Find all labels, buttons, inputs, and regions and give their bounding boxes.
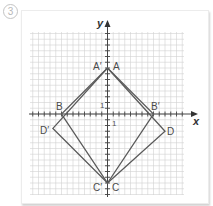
vertex-label-a: A (113, 61, 120, 72)
vertex-label-d: D (167, 126, 174, 137)
diagram-stage: 3 x y 1 1 A′ A B B′ D′ D C′ C (0, 0, 213, 206)
coordinate-plane: x y 1 1 A′ A B B′ D′ D C′ C (0, 0, 213, 206)
vertex-label-b-prime: B′ (151, 101, 160, 112)
y-axis-label: y (96, 17, 104, 29)
unit-y-label: 1 (100, 101, 105, 110)
unit-x-label: 1 (112, 119, 117, 128)
vertex-label-d-prime: D′ (40, 125, 49, 136)
vertex-label-c-prime: C′ (93, 182, 102, 193)
vertex-label-b: B (56, 101, 63, 112)
x-axis-label: x (192, 115, 200, 127)
axes: x y 1 1 (29, 17, 200, 197)
y-axis-arrow-icon (105, 20, 111, 27)
vertex-label-c: C (112, 182, 119, 193)
vertex-label-a-prime: A′ (93, 61, 102, 72)
